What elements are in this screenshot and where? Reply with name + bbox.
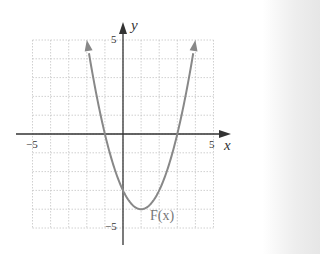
y-axis-label: y: [129, 17, 138, 33]
x-max-tick-label: 5: [209, 138, 215, 150]
y-max-tick-label: 5: [111, 33, 117, 45]
curve-arrowhead-icon: [85, 40, 93, 52]
x-min-tick-label: −5: [26, 138, 38, 150]
axes: [16, 22, 231, 245]
curve-label: F(x): [150, 208, 174, 224]
x-axis-label: x: [223, 137, 231, 153]
function-graph: −5 5 5 −5 x y F(x): [0, 0, 241, 254]
y-axis-arrow-icon: [119, 22, 127, 34]
y-min-tick-label: −5: [105, 220, 117, 232]
curve-arrowhead-icon: [190, 40, 198, 52]
